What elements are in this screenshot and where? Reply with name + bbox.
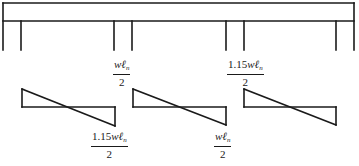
span-1-shear: [22, 89, 115, 126]
numerator: wℓn: [214, 131, 231, 147]
numerator: 1.15wℓn: [227, 59, 264, 75]
span-3-left-shear-label: 1.15wℓn 2: [227, 59, 264, 88]
numerator: wℓn: [113, 59, 130, 75]
coefficient: 1.15: [228, 58, 247, 70]
numerator: 1.15wℓn: [91, 131, 128, 147]
length-subscript: n: [123, 136, 127, 144]
denominator: 2: [214, 147, 231, 160]
load-symbol: w: [247, 58, 254, 70]
span-2-right-shear-label: wℓn 2: [214, 131, 231, 160]
denominator: 2: [91, 147, 128, 160]
span-2-left-shear-label: wℓn 2: [113, 59, 130, 88]
columns: [3, 3, 354, 50]
load-symbol: w: [111, 130, 118, 142]
span-1-right-shear-label: 1.15wℓn 2: [91, 131, 128, 160]
denominator: 2: [113, 75, 130, 88]
span-2-shear: [133, 89, 226, 125]
length-subscript: n: [126, 64, 130, 72]
beam: [3, 3, 354, 21]
length-subscript: n: [259, 64, 263, 72]
length-subscript: n: [227, 136, 231, 144]
denominator: 2: [227, 75, 264, 88]
shear-diagram: [0, 0, 359, 166]
span-3-shear: [244, 89, 336, 125]
coefficient: 1.15: [92, 130, 111, 142]
